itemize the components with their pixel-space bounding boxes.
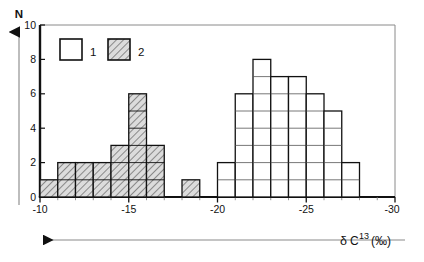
bar <box>253 59 271 197</box>
bar <box>182 180 200 197</box>
y-tick-label: 6 <box>30 87 36 99</box>
bar <box>76 163 94 197</box>
bar <box>58 163 76 197</box>
y-tick-label: 10 <box>24 19 36 31</box>
y-tick-label: 4 <box>30 122 36 134</box>
bar <box>342 163 360 197</box>
bar <box>289 77 307 197</box>
legend-label-2: 2 <box>138 46 144 58</box>
bar <box>235 94 253 197</box>
chart-figure: 0 2 4 6 8 10 <box>0 0 424 262</box>
y-axis-label: N <box>15 8 23 20</box>
x-tick-label: -20 <box>210 203 225 215</box>
legend-label-1: 1 <box>90 46 96 58</box>
bar <box>129 94 147 197</box>
bar <box>40 180 58 197</box>
x-tick-label: -25 <box>299 203 314 215</box>
bar <box>324 111 342 197</box>
y-tick-label: 0 <box>30 191 36 203</box>
y-tick-label: 2 <box>30 156 36 168</box>
x-tick-label: -15 <box>121 203 136 215</box>
bar <box>218 163 236 197</box>
x-tick-label: -10 <box>32 203 47 215</box>
bar <box>271 77 289 197</box>
x-axis-label-superscript: 13 <box>359 231 369 241</box>
bar <box>111 145 129 197</box>
bar <box>147 145 165 197</box>
legend-swatch-2 <box>108 39 130 60</box>
y-tick-label: 8 <box>30 53 36 65</box>
x-axis-label-delta: δ <box>340 234 347 248</box>
chart-svg: 0 2 4 6 8 10 <box>0 0 424 262</box>
x-tick-label: -30 <box>384 203 399 215</box>
x-axis-label-unit: (‰) <box>371 234 391 248</box>
bar <box>93 163 111 197</box>
legend-swatch-1 <box>60 39 82 60</box>
x-axis-label-element: C <box>350 234 359 248</box>
bar <box>306 94 324 197</box>
